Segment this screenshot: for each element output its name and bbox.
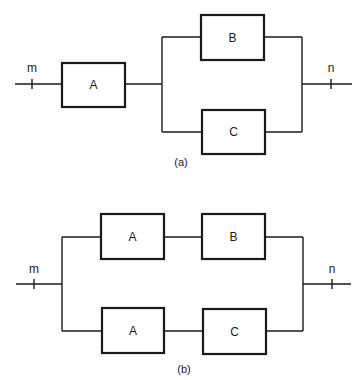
- block-c-label-a: C: [229, 125, 238, 139]
- block-a-label-a: A: [89, 78, 97, 92]
- caption-a: (a): [174, 156, 187, 168]
- node-n-label-b: n: [329, 262, 336, 276]
- block-a2-label-b: A: [129, 324, 137, 338]
- block-a1-label-b: A: [128, 230, 136, 244]
- node-n-label-a: n: [328, 61, 335, 75]
- block-b-label-a: B: [228, 31, 236, 45]
- diagram-b: m A A B C n (b): [16, 214, 351, 375]
- block-c-label-b: C: [230, 325, 239, 339]
- reliability-block-diagrams: m A B C n (a) m A A B C: [0, 0, 361, 380]
- caption-b: (b): [177, 363, 190, 375]
- block-b-label-b: B: [229, 230, 237, 244]
- node-m-label-a: m: [27, 61, 37, 75]
- diagram-a: m A B C n (a): [15, 15, 352, 168]
- node-m-label-b: m: [29, 262, 39, 276]
